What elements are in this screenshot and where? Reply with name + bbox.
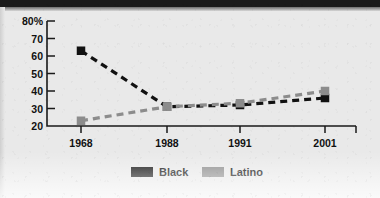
y-tick-label: 50	[31, 68, 43, 80]
legend-label-latino: Latino	[230, 166, 263, 178]
x-tick-label: 1968	[69, 137, 93, 149]
y-axis-labels: 80% 70 60 50 40 30 20	[22, 15, 44, 132]
x-tick-label: 1988	[155, 137, 179, 149]
series-line-black	[81, 51, 325, 107]
legend-swatch-latino	[202, 167, 224, 177]
line-chart: 80% 70 60 50 40 30 20 1968 1988 1991 200…	[0, 0, 380, 198]
chart-container: 80% 70 60 50 40 30 20 1968 1988 1991 200…	[0, 0, 380, 198]
y-tick-label: 40	[31, 85, 43, 97]
chart-legend: Black Latino	[131, 166, 263, 178]
x-axis-labels: 1968 1988 1991 2001	[69, 137, 337, 149]
data-point-marker	[77, 47, 86, 56]
x-tick-label: 2001	[313, 137, 337, 149]
x-axis-ticks	[81, 126, 356, 133]
legend-label-black: Black	[159, 166, 189, 178]
legend-swatch-black	[131, 167, 153, 177]
data-point-marker	[163, 103, 172, 112]
data-point-marker	[236, 99, 245, 108]
y-tick-label: 60	[31, 50, 43, 62]
y-tick-label: 80%	[22, 15, 44, 27]
data-point-marker	[77, 117, 86, 126]
data-point-marker	[321, 87, 330, 96]
axis-lines	[47, 21, 356, 126]
y-axis-ticks	[47, 21, 55, 109]
y-tick-label: 30	[31, 103, 43, 115]
y-tick-label: 20	[31, 120, 43, 132]
x-tick-label: 1991	[228, 137, 252, 149]
series-line-latino	[81, 91, 325, 121]
y-tick-label: 70	[31, 33, 43, 45]
data-series-layer	[77, 47, 330, 126]
